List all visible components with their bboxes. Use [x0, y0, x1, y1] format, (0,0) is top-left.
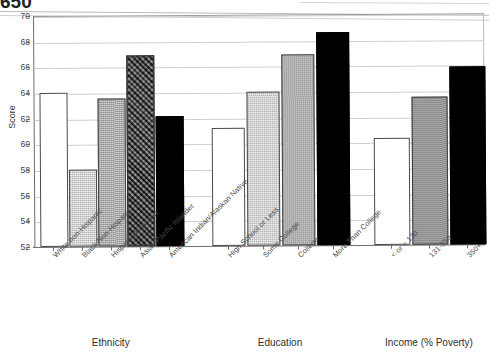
x-axis-category-label-group: White non-HispanicBlack Non-HispanicHisp… [0, 0, 489, 358]
x-axis-category-label: College [296, 235, 321, 260]
group-title: Education [200, 337, 360, 348]
group-title: Ethnicity [31, 337, 191, 348]
x-axis-category-label: 350+ [465, 241, 483, 259]
x-axis-category-label: Some College [261, 219, 301, 259]
x-axis-category-label: 131-350 [427, 233, 453, 259]
x-axis-category-label: Asian/Pacific Islander [138, 201, 196, 259]
x-axis-category-label: White non-Hispanic [51, 206, 104, 259]
x-axis-category-label: More Than College [331, 207, 383, 259]
group-title: Income (% Poverty) [349, 337, 489, 348]
x-axis-category-label: < or = 130 [389, 228, 420, 259]
x-axis-category-label: Black Non-Hispanic [80, 206, 133, 259]
